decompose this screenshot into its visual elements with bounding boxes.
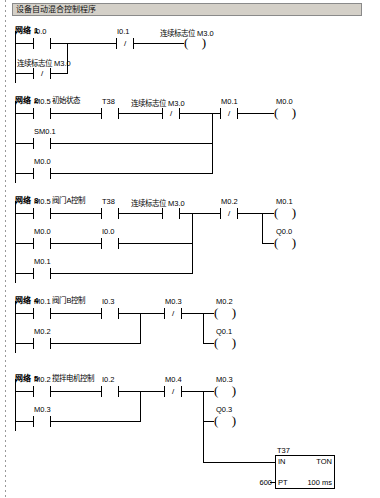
contact-n1-i01-not[interactable]: /: [116, 38, 134, 49]
contact-n4-m02[interactable]: [33, 338, 51, 349]
contact-n3-m01[interactable]: [33, 268, 51, 279]
coil-right-paren: ): [292, 236, 296, 249]
contact-n5-m04-not[interactable]: /: [164, 386, 182, 397]
contact-label-n3-m30: 连续标志位 M3.0: [131, 197, 185, 208]
contact-n3-i00[interactable]: [101, 238, 119, 249]
wire-pt-input: [270, 482, 275, 483]
timer-timebase-label: 100 ms: [307, 478, 332, 487]
wire: [15, 43, 33, 44]
contact-n3-m05[interactable]: [33, 208, 51, 219]
contact-label-n4-m01: M0.1: [34, 297, 51, 306]
branch-vline-n1-left: [15, 43, 16, 73]
wire: [15, 421, 33, 422]
wire: [119, 391, 164, 392]
contact-label-n5-i02: I0.2: [102, 375, 115, 384]
contact-label-n2-sm01: SM0.1: [34, 127, 56, 136]
wire: [51, 73, 68, 74]
coil-left-paren: (: [214, 414, 218, 427]
wire: [15, 113, 33, 114]
contact-label-n2-t38: T38: [102, 97, 115, 106]
coil-left-paren: (: [274, 106, 278, 119]
wire: [238, 213, 274, 214]
coil-left-paren: (: [274, 206, 278, 219]
coil-n1-m30[interactable]: ( ): [184, 37, 206, 50]
timer-type-label: TON: [316, 457, 332, 466]
wire: [119, 113, 162, 114]
timer-in-label: IN: [278, 457, 286, 466]
wire: [51, 113, 101, 114]
contact-label-n2-m00: M0.0: [34, 157, 51, 166]
contact-n4-m01[interactable]: [33, 308, 51, 319]
contact-label-n4-i03: I0.3: [102, 297, 115, 306]
contact-label-n3-i00: I0.0: [102, 227, 115, 236]
coil-label-n5-m03: M0.3: [216, 375, 233, 384]
wire: [119, 313, 164, 314]
contact-n5-m03[interactable]: [33, 416, 51, 427]
coil-n4-q01[interactable]: ( ): [214, 337, 236, 350]
coil-n5-q03[interactable]: ( ): [214, 415, 236, 428]
wire: [182, 391, 214, 392]
contact-label-n3-t38: T38: [102, 197, 115, 206]
contact-n2-m01-not[interactable]: /: [220, 108, 238, 119]
contact-label-n3-m05: M0.5: [34, 197, 51, 206]
wire: [51, 43, 116, 44]
not-contact-glyph: /: [124, 38, 126, 49]
contact-n2-m30-not[interactable]: /: [162, 108, 180, 119]
wire: [51, 343, 141, 344]
coil-label-n5-q03: Q0.3: [216, 405, 232, 414]
wire: [51, 391, 101, 392]
wire: [15, 343, 33, 344]
contact-label-n3-m00: M0.0: [34, 227, 51, 236]
contact-n5-i02[interactable]: [101, 386, 119, 397]
coil-left-paren: (: [214, 306, 218, 319]
contact-n4-m03-not[interactable]: /: [164, 308, 182, 319]
not-contact-glyph: /: [228, 108, 230, 119]
contact-n3-m00[interactable]: [33, 238, 51, 249]
coil-right-paren: ): [292, 106, 296, 119]
coil-n3-q00[interactable]: ( ): [274, 237, 296, 250]
wire: [119, 213, 162, 214]
wire: [182, 313, 214, 314]
timer-block-t37[interactable]: IN TON PT 100 ms: [275, 455, 335, 489]
wire: [51, 421, 141, 422]
coil-n3-m01[interactable]: ( ): [274, 207, 296, 220]
contact-n2-m05[interactable]: [33, 108, 51, 119]
contact-n3-m30[interactable]: [162, 208, 180, 219]
contact-n3-m02-not[interactable]: /: [220, 208, 238, 219]
wire: [203, 343, 214, 344]
contact-n5-m02[interactable]: [33, 386, 51, 397]
wire: [180, 113, 220, 114]
coil-right-paren: ): [232, 384, 236, 397]
not-contact-glyph: /: [172, 386, 174, 397]
contact-label-n3-m02: M0.2: [221, 197, 238, 206]
contact-n1-i00[interactable]: [33, 38, 51, 49]
not-contact-glyph: /: [170, 108, 172, 119]
contact-n2-t38[interactable]: [101, 108, 119, 119]
contact-n2-sm01[interactable]: [33, 138, 51, 149]
wire-to-timer: [203, 462, 275, 463]
wire: [180, 213, 220, 214]
wire: [238, 113, 274, 114]
coil-n4-m02[interactable]: ( ): [214, 307, 236, 320]
contact-label-n5-m03b: M0.3: [34, 405, 51, 414]
coil-n2-m00[interactable]: ( ): [274, 107, 296, 120]
coil-label-n3-q00: Q0.0: [276, 227, 292, 236]
contact-n3-t38[interactable]: [101, 208, 119, 219]
coil-left-paren: (: [214, 336, 218, 349]
not-contact-glyph: /: [172, 308, 174, 319]
wire: [51, 313, 101, 314]
coil-n5-m03[interactable]: ( ): [214, 385, 236, 398]
wire: [51, 213, 101, 214]
contact-n4-i03[interactable]: [101, 308, 119, 319]
branch-vline-n4-right: [140, 313, 141, 343]
not-contact-glyph: /: [228, 208, 230, 219]
coil-right-paren: ): [292, 206, 296, 219]
contact-label-n2-m30: 连续标志位 M3.0: [131, 97, 185, 108]
contact-label-n5-m02: M0.2: [34, 375, 51, 384]
coil-label-n2: M0.0: [276, 97, 293, 106]
contact-n1-m30-not[interactable]: /: [33, 68, 51, 79]
wire: [51, 173, 213, 174]
not-contact-glyph: /: [41, 68, 43, 79]
branch-vline-n4-left: [15, 313, 16, 343]
contact-n2-m00[interactable]: [33, 168, 51, 179]
